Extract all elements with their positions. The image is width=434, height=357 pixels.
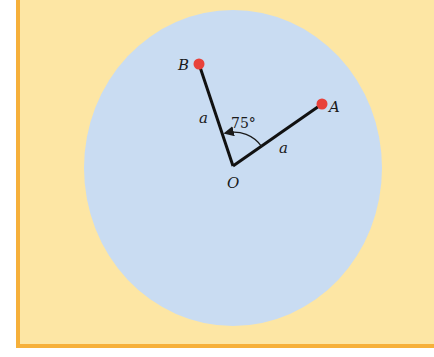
label-b: B: [177, 56, 189, 74]
angle-diagram: B A O a a 75°: [0, 0, 434, 357]
label-a: A: [327, 98, 340, 116]
label-side-oa: a: [279, 139, 288, 157]
point-a: [317, 99, 328, 110]
label-side-ob: a: [199, 109, 208, 127]
point-b: [194, 59, 205, 70]
label-angle: 75°: [231, 115, 256, 131]
label-o: O: [227, 174, 239, 192]
disc: [84, 10, 382, 326]
